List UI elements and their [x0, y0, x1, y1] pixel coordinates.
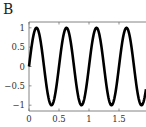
y-tick-label: −0.5	[4, 81, 25, 91]
x-tick-label: 1	[86, 114, 91, 124]
sine-curve	[29, 28, 146, 105]
y-tick-label: 1	[20, 23, 25, 33]
y-tick-label: −1	[12, 100, 25, 110]
x-tick-label: 1.5	[112, 114, 126, 124]
sine-wave-chart: 00.511.510.50−0.5−1	[0, 0, 146, 127]
y-tick-label: 0.5	[11, 42, 25, 52]
tick-labels: 00.511.510.50−0.5−1	[4, 23, 125, 124]
x-tick-label: 0	[26, 114, 31, 124]
x-tick-label: 0.5	[52, 114, 66, 124]
y-tick-label: 0	[20, 62, 25, 72]
